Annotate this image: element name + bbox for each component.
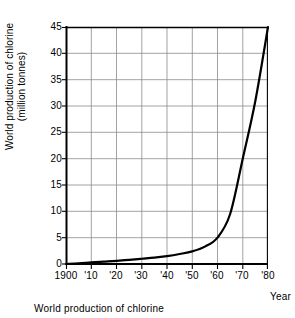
chart-figure: World production of chlorine (million to…: [0, 0, 295, 318]
y-axis-ticks: [62, 28, 66, 265]
chart-plot-svg: [0, 0, 295, 318]
